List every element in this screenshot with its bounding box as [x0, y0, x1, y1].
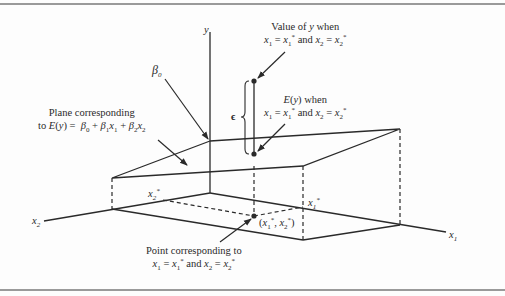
- x2-star-label: x2*: [148, 187, 160, 200]
- arrow-beta0: [165, 79, 208, 139]
- value-of-y-line1: Value of y when: [264, 20, 346, 33]
- x2-axis-label: x2: [32, 214, 40, 227]
- point-line1: Point corresponding to: [146, 244, 242, 257]
- plane-label: Plane corresponding to E(y) = β0 + β1x1 …: [38, 106, 146, 132]
- expected-line1: E(y) when: [264, 93, 346, 106]
- beta0-label: β0: [152, 64, 161, 77]
- plane-line2: to E(y) = β0 + β1x1 + β2x2: [38, 119, 146, 132]
- point-line2: x1 = x1* and x2 = x2*: [146, 257, 242, 270]
- x2-axis: [44, 193, 210, 221]
- expected-point: [251, 151, 256, 156]
- arrow-plane: [158, 140, 187, 165]
- point-coords-label: (x1*, x2*): [259, 216, 295, 229]
- observed-point: [251, 78, 256, 83]
- dashed-to-x1star: [254, 207, 303, 216]
- base-edge-front-right: [303, 225, 400, 240]
- regression-plane-diagram: [0, 0, 505, 296]
- value-of-y-label: Value of y when x1 = x1* and x2 = x2*: [264, 20, 346, 46]
- x1-axis-label: x1: [449, 228, 457, 241]
- x1-star-label: x1*: [308, 196, 320, 209]
- dashed-to-x2star: [163, 200, 254, 216]
- value-of-y-line2: x1 = x1* and x2 = x2*: [264, 33, 346, 46]
- epsilon-brace: [241, 81, 249, 154]
- plane-line1: Plane corresponding: [38, 106, 146, 119]
- x1-axis: [210, 193, 446, 232]
- point-label: Point corresponding to x1 = x1* and x2 =…: [146, 244, 242, 270]
- expected-y-label: E(y) when x1 = x1* and x2 = x2*: [264, 93, 346, 119]
- xstar-point: [251, 213, 256, 218]
- arrow-value-of-y: [258, 52, 285, 78]
- expected-line2: x1 = x1* and x2 = x2*: [264, 106, 346, 119]
- epsilon-label: ϵ: [231, 110, 235, 123]
- y-axis-label: y: [204, 23, 209, 36]
